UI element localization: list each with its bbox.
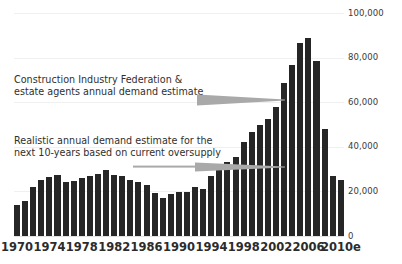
bar bbox=[297, 43, 303, 236]
x-axis-tick-label: 1978 bbox=[66, 240, 98, 254]
annotation-realistic-line1: Realistic annual demand estimate for the bbox=[14, 135, 213, 146]
y-axis-tick-label: 0 bbox=[348, 231, 400, 241]
bar bbox=[127, 180, 133, 236]
arrow-icon-cif-estimate bbox=[197, 93, 289, 107]
y-axis-labels: 020,00040,00060,00080,000100,000 bbox=[348, 0, 402, 264]
annotation-realistic-estimate: Realistic annual demand estimate for the… bbox=[14, 135, 221, 160]
x-axis-tick-label: 2010e bbox=[321, 240, 361, 254]
bar bbox=[241, 142, 247, 236]
bar bbox=[338, 180, 344, 236]
arrow-icon-realistic-estimate bbox=[133, 160, 293, 174]
annotation-cif-line1: Construction Industry Federation & bbox=[14, 74, 182, 85]
bar bbox=[208, 176, 214, 236]
bar bbox=[313, 61, 319, 236]
plot-area bbox=[14, 13, 344, 236]
x-axis-tick-label: 2002 bbox=[260, 240, 292, 254]
bar bbox=[79, 178, 85, 236]
bar bbox=[111, 175, 117, 236]
bar bbox=[87, 176, 93, 236]
y-axis-tick-label: 40,000 bbox=[348, 141, 400, 151]
x-axis-tick-label: 1998 bbox=[228, 240, 260, 254]
gridline-0 bbox=[14, 236, 344, 237]
bar bbox=[152, 193, 158, 236]
bar bbox=[160, 198, 166, 236]
bar bbox=[289, 65, 295, 236]
bar bbox=[322, 129, 328, 236]
y-axis-tick-label: 60,000 bbox=[348, 97, 400, 107]
bar bbox=[54, 175, 60, 236]
bar bbox=[71, 181, 77, 236]
y-axis-tick-label: 100,000 bbox=[348, 8, 400, 18]
x-axis-tick-label: 2006 bbox=[293, 240, 325, 254]
bar bbox=[305, 38, 311, 236]
bar bbox=[46, 177, 52, 236]
x-axis-tick-label: 1986 bbox=[131, 240, 163, 254]
bar bbox=[192, 187, 198, 236]
bar bbox=[168, 194, 174, 236]
y-axis-tick-label: 80,000 bbox=[348, 52, 400, 62]
bar bbox=[63, 182, 69, 236]
annotation-cif-line2: estate agents annual demand estimate bbox=[14, 86, 203, 98]
bar bbox=[22, 201, 28, 236]
x-axis-labels: 1970197419781982198619901994199820022006… bbox=[0, 240, 402, 262]
bar bbox=[184, 192, 190, 236]
x-axis-tick-label: 1994 bbox=[195, 240, 227, 254]
bar bbox=[38, 180, 44, 236]
bar bbox=[216, 166, 222, 236]
bar bbox=[265, 119, 271, 236]
bar-chart-figure: 020,00040,00060,00080,000100,000 1970197… bbox=[0, 0, 402, 264]
bar bbox=[14, 205, 20, 236]
bar bbox=[249, 132, 255, 236]
bar bbox=[144, 185, 150, 236]
annotation-cif-estimate: Construction Industry Federation & estat… bbox=[14, 74, 203, 99]
x-axis-tick-label: 1982 bbox=[98, 240, 130, 254]
bar bbox=[103, 170, 109, 236]
y-axis-tick-label: 20,000 bbox=[348, 186, 400, 196]
bar-series bbox=[14, 13, 344, 236]
bar bbox=[119, 176, 125, 236]
bar bbox=[30, 187, 36, 236]
x-axis-tick-label: 1974 bbox=[33, 240, 65, 254]
bar bbox=[257, 125, 263, 236]
bar bbox=[176, 192, 182, 236]
bar bbox=[330, 176, 336, 236]
bar bbox=[135, 182, 141, 236]
x-axis-tick-label: 1970 bbox=[1, 240, 33, 254]
bar bbox=[95, 174, 101, 236]
bar bbox=[200, 189, 206, 236]
x-axis-tick-label: 1990 bbox=[163, 240, 195, 254]
annotation-realistic-line2: next 10-years based on current oversuppl… bbox=[14, 147, 221, 159]
